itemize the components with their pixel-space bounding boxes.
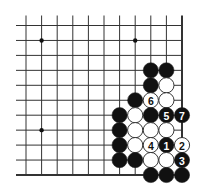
white-stone <box>159 152 174 167</box>
white-stone <box>128 123 143 138</box>
move-number: 3 <box>179 155 185 167</box>
stone-disc <box>128 123 143 138</box>
move-number: 5 <box>163 110 169 122</box>
white-stone: 6 <box>143 93 158 108</box>
black-stone <box>112 138 127 153</box>
black-stone <box>143 167 158 182</box>
stone-disc <box>143 78 158 93</box>
white-stone <box>159 78 174 93</box>
stone-disc <box>143 123 158 138</box>
stone-disc <box>159 63 174 78</box>
black-stone <box>128 152 143 167</box>
black-stone: 1 <box>159 138 174 153</box>
move-number: 2 <box>179 140 185 152</box>
black-stone <box>159 63 174 78</box>
white-stone <box>128 108 143 123</box>
black-stone: 7 <box>174 108 189 123</box>
go-board: 6574123 <box>0 0 201 188</box>
stone-disc <box>159 93 174 108</box>
star-point <box>39 38 43 42</box>
white-stone <box>128 138 143 153</box>
white-stone <box>143 152 158 167</box>
move-number: 7 <box>179 110 185 122</box>
stone-disc <box>159 167 174 182</box>
stone-disc <box>159 78 174 93</box>
star-point <box>39 128 43 132</box>
black-stone <box>159 167 174 182</box>
stone-disc <box>112 123 127 138</box>
stone-disc <box>112 138 127 153</box>
move-number: 4 <box>148 140 154 152</box>
stone-disc <box>128 108 143 123</box>
move-number: 6 <box>148 95 154 107</box>
stone-disc <box>112 108 127 123</box>
black-stone <box>112 108 127 123</box>
stone-disc <box>143 152 158 167</box>
move-number: 1 <box>163 140 169 152</box>
white-stone <box>159 93 174 108</box>
black-stone <box>143 78 158 93</box>
stone-disc <box>128 93 143 108</box>
black-stone <box>143 63 158 78</box>
stone-disc <box>128 152 143 167</box>
stone-disc <box>159 123 174 138</box>
stone-disc <box>128 138 143 153</box>
star-point <box>133 38 137 42</box>
stone-disc <box>159 152 174 167</box>
white-stone <box>159 123 174 138</box>
stone-disc <box>143 167 158 182</box>
black-stone <box>143 108 158 123</box>
white-stone: 2 <box>174 138 189 153</box>
stone-disc <box>143 108 158 123</box>
stone-disc <box>174 167 189 182</box>
white-stone <box>143 123 158 138</box>
white-stone: 4 <box>143 138 158 153</box>
black-stone <box>174 167 189 182</box>
stone-disc <box>112 152 127 167</box>
stones: 6574123 <box>112 63 190 183</box>
black-stone: 5 <box>159 108 174 123</box>
black-stone <box>128 93 143 108</box>
black-stone: 3 <box>174 152 189 167</box>
stone-disc <box>143 63 158 78</box>
black-stone <box>112 123 127 138</box>
black-stone <box>112 152 127 167</box>
